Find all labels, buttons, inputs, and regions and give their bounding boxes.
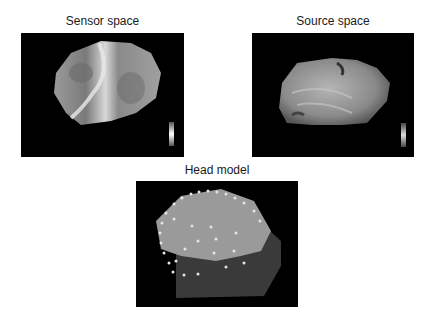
source-space-title: Source space bbox=[252, 14, 414, 28]
sensor-topography bbox=[21, 33, 184, 157]
head-mesh bbox=[136, 181, 298, 307]
sensor-space-title: Sensor space bbox=[21, 14, 184, 28]
cortex-rendering bbox=[252, 33, 414, 157]
head-model-title: Head model bbox=[136, 163, 298, 177]
head-model-panel bbox=[136, 181, 298, 307]
sensor-space-panel bbox=[21, 33, 184, 157]
sensor-colorbar bbox=[169, 122, 174, 146]
source-space-panel bbox=[252, 33, 414, 157]
source-colorbar bbox=[401, 123, 406, 147]
